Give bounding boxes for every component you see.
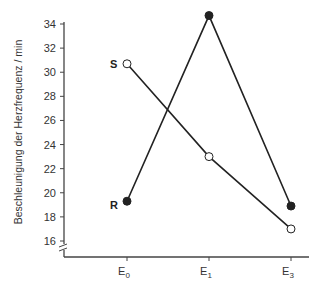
y-axis-title: Beschleunigung der Herzfrequenz / min bbox=[12, 40, 24, 225]
y-tick-label: 16 bbox=[44, 235, 56, 247]
filled-circle-marker bbox=[287, 202, 295, 210]
series-label: S bbox=[110, 58, 117, 70]
x-tick-label: E3 bbox=[282, 265, 294, 280]
y-tick-label: 32 bbox=[44, 42, 56, 54]
y-tick-label: 26 bbox=[44, 114, 56, 126]
filled-circle-marker bbox=[205, 12, 213, 20]
y-tick-label: 18 bbox=[44, 211, 56, 223]
y-tick-label: 24 bbox=[44, 139, 56, 151]
y-axis: 16182022242628303234 bbox=[44, 18, 67, 257]
filled-circle-marker bbox=[123, 197, 131, 205]
series-r: R bbox=[110, 12, 295, 212]
y-tick-label: 30 bbox=[44, 66, 56, 78]
open-circle-marker bbox=[205, 153, 213, 161]
y-tick-label: 20 bbox=[44, 187, 56, 199]
y-tick-label: 34 bbox=[44, 18, 56, 30]
open-circle-marker bbox=[123, 60, 131, 68]
series-label: R bbox=[110, 199, 118, 211]
series-group: SR bbox=[110, 12, 295, 233]
series-s: S bbox=[110, 58, 295, 233]
y-tick-label: 22 bbox=[44, 163, 56, 175]
series-line bbox=[127, 16, 291, 206]
line-chart: 16182022242628303234 E0E1E3 Beschleunigu… bbox=[0, 0, 326, 289]
axis-break-icon bbox=[59, 244, 67, 251]
x-tick-label: E1 bbox=[200, 265, 212, 280]
open-circle-marker bbox=[287, 225, 295, 233]
x-axis: E0E1E3 bbox=[64, 257, 309, 280]
y-tick-label: 28 bbox=[44, 90, 56, 102]
x-tick-label: E0 bbox=[118, 265, 130, 280]
